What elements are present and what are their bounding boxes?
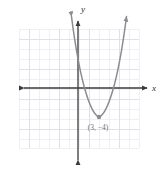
y-axis-label: y <box>80 4 85 14</box>
vertex-label: (3, −4) <box>88 123 109 132</box>
graph-figure: (3, −4) x y <box>0 0 162 169</box>
vertex-point <box>97 115 101 119</box>
x-axis-label: x <box>151 83 156 93</box>
coordinate-plane-svg: (3, −4) x y <box>0 0 162 169</box>
